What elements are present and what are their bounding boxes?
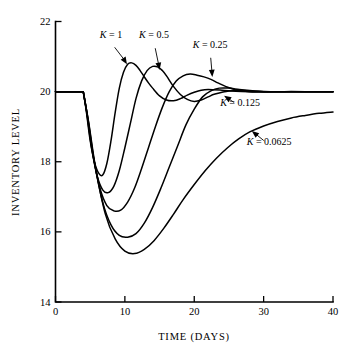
annotation-leader-line-1: [155, 48, 158, 64]
y-tick-label-14: 14: [40, 297, 51, 308]
tick-labels-group: 1416182022010203040: [40, 16, 338, 317]
axes-group: [56, 22, 334, 303]
curve-series-4: [56, 92, 334, 254]
tick-marks-group: [56, 22, 334, 303]
series-annotation-label-0: K = 1: [99, 29, 122, 40]
series-annotation-label-2: K = 0.25: [192, 39, 228, 50]
series-annotation-label-3: K = 0.125: [219, 97, 260, 108]
x-tick-label-10: 10: [120, 306, 131, 317]
x-tick-label-40: 40: [328, 306, 339, 317]
y-tick-label-20: 20: [40, 86, 51, 97]
annotation-arrowhead-0: [121, 57, 127, 65]
annotation-leader-line-0: [115, 47, 124, 59]
x-tick-label-0: 0: [53, 306, 58, 317]
curves-group: [56, 63, 334, 254]
annotation-arrowhead-2: [209, 70, 215, 77]
annotation-leader-line-2: [211, 58, 212, 72]
x-tick-label-20: 20: [189, 306, 200, 317]
y-tick-label-22: 22: [40, 16, 51, 27]
series-annotation-label-1: K = 0.5: [138, 29, 169, 40]
annotations-group: K = 1K = 0.5K = 0.25K = 0.125K = 0.0625: [99, 29, 292, 147]
series-annotation-label-4: K = 0.0625: [246, 136, 292, 147]
y-tick-label-18: 18: [40, 156, 51, 167]
y-tick-label-16: 16: [40, 226, 51, 237]
curve-series-3: [56, 88, 334, 237]
curve-series-0: [56, 63, 334, 176]
x-axis-title: TIME (DAYS): [158, 331, 230, 343]
x-tick-label-30: 30: [258, 306, 269, 317]
axis-spines: [56, 22, 334, 303]
chart-figure: 1416182022010203040 K = 1K = 0.5K = 0.25…: [0, 0, 351, 353]
inventory-level-line-chart: 1416182022010203040 K = 1K = 0.5K = 0.25…: [0, 0, 351, 353]
y-axis-title: INVENTORY LEVEL: [10, 108, 21, 216]
